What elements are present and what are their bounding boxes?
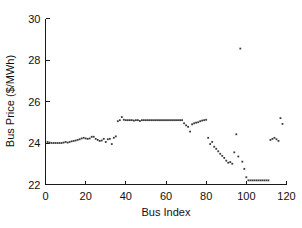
data-point — [268, 179, 270, 181]
data-point — [127, 119, 129, 121]
data-point — [81, 138, 83, 140]
data-point — [117, 120, 119, 122]
data-point — [187, 126, 189, 128]
data-point — [266, 179, 268, 181]
data-point — [71, 140, 73, 142]
data-point — [239, 48, 241, 50]
x-tick-label: 120 — [277, 190, 295, 202]
data-point — [255, 179, 257, 181]
data-point — [135, 119, 137, 121]
data-point — [153, 119, 155, 121]
data-point — [278, 140, 280, 142]
data-point — [103, 138, 105, 140]
data-point — [137, 119, 139, 121]
data-point — [85, 138, 87, 140]
data-point — [177, 119, 179, 121]
data-point — [59, 142, 61, 144]
data-point — [139, 120, 141, 122]
data-point — [243, 168, 245, 170]
axis-lines — [46, 19, 287, 185]
data-point — [272, 138, 274, 140]
data-point — [235, 133, 237, 135]
data-point — [111, 143, 113, 145]
data-point — [107, 138, 109, 140]
data-point — [105, 141, 107, 143]
data-point — [201, 120, 203, 122]
data-point — [227, 162, 229, 164]
data-point — [225, 160, 227, 162]
y-tick-label: 30 — [28, 13, 40, 25]
data-point — [131, 119, 133, 121]
data-point — [115, 135, 117, 137]
data-point — [97, 139, 99, 141]
data-point — [69, 141, 71, 143]
data-point — [211, 141, 213, 143]
data-point — [282, 123, 284, 125]
data-point — [205, 119, 207, 121]
data-point — [195, 122, 197, 124]
data-point — [189, 131, 191, 133]
data-points-layer — [47, 48, 284, 182]
data-point — [125, 119, 127, 121]
data-point — [93, 136, 95, 138]
data-point — [91, 136, 93, 138]
data-point — [83, 137, 85, 139]
data-point — [237, 156, 239, 158]
data-point — [251, 179, 253, 181]
data-point — [57, 142, 59, 144]
y-tick-label: 28 — [28, 54, 40, 66]
data-point — [183, 122, 185, 124]
data-point — [231, 163, 233, 165]
x-tick-label: 0 — [42, 190, 48, 202]
data-point — [167, 119, 169, 121]
data-point — [203, 119, 205, 121]
data-point — [67, 142, 69, 144]
y-tick-label: 24 — [28, 137, 40, 149]
data-point — [47, 141, 49, 143]
data-point — [223, 157, 225, 159]
data-point — [123, 119, 125, 121]
data-point — [213, 146, 215, 148]
data-point — [197, 121, 199, 123]
data-point — [145, 119, 147, 121]
data-point — [61, 142, 63, 144]
x-axis-title: Bus Index — [142, 206, 191, 218]
data-point — [73, 140, 75, 142]
data-point — [55, 142, 57, 144]
data-point — [51, 142, 53, 144]
data-point — [143, 119, 145, 121]
data-point — [163, 119, 165, 121]
data-point — [221, 155, 223, 157]
data-point — [87, 138, 89, 140]
data-point — [65, 141, 67, 143]
data-point — [113, 137, 115, 139]
data-point — [95, 138, 97, 140]
data-point — [264, 179, 266, 181]
chart-figure: 2224262830 020406080100120 Bus Index Bus… — [0, 0, 302, 228]
data-point — [173, 119, 175, 121]
data-point — [133, 120, 135, 122]
data-point — [77, 139, 79, 141]
data-point — [215, 148, 217, 150]
data-point — [276, 138, 278, 140]
data-point — [161, 119, 163, 121]
data-point — [249, 179, 251, 181]
data-point — [257, 179, 259, 181]
data-point — [49, 142, 51, 144]
data-point — [217, 150, 219, 152]
data-point — [253, 179, 255, 181]
data-point — [169, 119, 171, 121]
data-point — [185, 124, 187, 126]
data-point — [233, 151, 235, 153]
data-point — [79, 138, 81, 140]
y-tick-label: 22 — [28, 179, 40, 191]
y-axis-ticks: 2224262830 — [28, 13, 49, 191]
data-point — [99, 140, 101, 142]
data-point — [141, 119, 143, 121]
data-point — [175, 119, 177, 121]
x-tick-label: 20 — [80, 190, 92, 202]
data-point — [259, 179, 261, 181]
x-tick-label: 100 — [237, 190, 255, 202]
data-point — [199, 120, 201, 122]
data-point — [270, 139, 272, 141]
